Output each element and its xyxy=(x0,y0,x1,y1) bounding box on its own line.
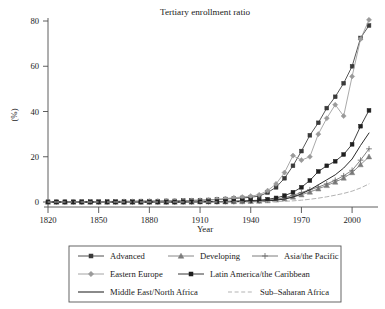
data-point-marker xyxy=(308,179,312,183)
data-point-marker xyxy=(342,81,346,85)
series-latin-america-the-caribbean xyxy=(46,108,371,203)
series-eastern-europe xyxy=(45,17,371,204)
legend-label: Eastern Europe xyxy=(110,269,163,279)
legend-item-developing[interactable]: Developing xyxy=(168,251,241,261)
data-point-marker xyxy=(300,149,304,153)
x-tick-label-1820: 1820 xyxy=(39,215,56,225)
data-point-marker xyxy=(300,185,304,189)
y-tick-label-20: 20 xyxy=(30,152,39,162)
x-tick-label-1940: 1940 xyxy=(242,215,259,225)
legend-label: Asia/the Pacific xyxy=(284,251,339,261)
data-point-marker xyxy=(291,164,295,168)
data-point-marker xyxy=(342,153,346,157)
data-point-marker xyxy=(350,74,355,79)
data-point-marker xyxy=(367,24,371,28)
data-point-marker xyxy=(283,176,287,180)
x-tick-label-1970: 1970 xyxy=(293,215,310,225)
chart-title: Tertiary enrollment ratio xyxy=(160,7,251,17)
x-axis-title: Year xyxy=(197,224,213,234)
series-line xyxy=(48,26,369,202)
legend-entries: AdvancedDevelopingAsia/the PacificEaster… xyxy=(78,251,339,297)
data-point-marker xyxy=(88,271,93,276)
legend-label: Sub–Saharan Africa xyxy=(260,287,329,297)
data-point-marker xyxy=(189,272,193,276)
legend-item-middle-east-north-africa[interactable]: Middle East/North Africa xyxy=(78,287,198,297)
x-tick-label-2000: 2000 xyxy=(344,215,361,225)
legend-label: Developing xyxy=(200,251,241,261)
data-point-marker xyxy=(299,158,304,163)
tertiary-enrollment-line-chart: Tertiary enrollment ratio 020406080 (%) … xyxy=(0,0,385,309)
data-point-marker xyxy=(274,196,278,200)
data-point-marker xyxy=(359,124,363,128)
data-point-marker xyxy=(291,190,295,194)
data-point-marker xyxy=(316,121,320,125)
legend-label: Latin America/the Caribbean xyxy=(210,269,310,279)
legend-label: Middle East/North Africa xyxy=(110,287,198,297)
series-line xyxy=(48,20,369,202)
legend-item-sub-saharan-africa[interactable]: Sub–Saharan Africa xyxy=(228,287,329,297)
series-middle-east-north-africa xyxy=(48,133,369,202)
y-tick-label-0: 0 xyxy=(35,197,39,207)
y-tick-label-80: 80 xyxy=(30,16,39,26)
data-point-marker xyxy=(350,64,354,68)
legend-item-asia-the-pacific[interactable]: Asia/the Pacific xyxy=(252,251,339,261)
data-point-marker xyxy=(333,95,337,99)
legend-item-advanced[interactable]: Advanced xyxy=(78,251,146,261)
series-layer xyxy=(45,17,372,205)
x-axis: 1820185018801910194019702000 Year xyxy=(39,207,378,234)
legend-label: Advanced xyxy=(110,251,146,261)
data-point-marker xyxy=(316,170,320,174)
data-point-marker xyxy=(332,177,338,183)
data-point-marker xyxy=(366,154,371,159)
data-point-marker xyxy=(283,194,287,198)
data-point-marker xyxy=(308,133,312,137)
data-point-marker xyxy=(290,153,295,158)
data-point-marker xyxy=(325,106,329,110)
x-tick-label-1880: 1880 xyxy=(141,215,158,225)
series-line xyxy=(48,157,369,202)
y-axis-title: (%) xyxy=(9,108,19,121)
data-point-marker xyxy=(350,142,354,146)
data-point-marker xyxy=(316,132,321,137)
y-tick-label-40: 40 xyxy=(30,107,39,117)
x-tick-label-1850: 1850 xyxy=(90,215,107,225)
y-tick-group: 020406080 xyxy=(30,16,48,207)
chart-figure: Tertiary enrollment ratio 020406080 (%) … xyxy=(0,0,385,309)
series-line xyxy=(48,133,369,202)
y-tick-label-60: 60 xyxy=(30,61,39,71)
data-point-marker xyxy=(367,108,371,112)
y-axis: 020406080 (%) xyxy=(9,16,48,207)
data-point-marker xyxy=(262,253,268,259)
data-point-marker xyxy=(325,164,329,168)
data-point-marker xyxy=(366,17,371,22)
data-point-marker xyxy=(324,116,329,121)
x-tick-group: 1820185018801910194019702000 xyxy=(39,207,360,225)
chart-legend: AdvancedDevelopingAsia/the PacificEaster… xyxy=(69,246,341,302)
data-point-marker xyxy=(333,159,337,163)
data-point-marker xyxy=(89,254,93,258)
data-point-marker xyxy=(307,154,312,159)
series-line xyxy=(48,149,369,202)
data-point-marker xyxy=(341,173,347,179)
series-developing xyxy=(45,154,371,204)
series-advanced xyxy=(46,24,371,204)
legend-item-latin-america-the-caribbean[interactable]: Latin America/the Caribbean xyxy=(178,269,310,279)
legend-item-eastern-europe[interactable]: Eastern Europe xyxy=(78,269,163,279)
series-asia-the-pacific xyxy=(45,146,372,205)
